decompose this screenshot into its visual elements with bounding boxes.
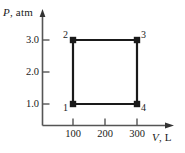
x-axis-ticks [73,119,137,126]
y-tick-label-3: 3.0 [13,34,39,45]
x-axis-label: V, L [152,131,172,143]
y-tick-label-2: 2.0 [13,66,39,77]
marker-point-3 [134,37,140,43]
y-axis-ticks [43,40,50,104]
y-axis [40,9,46,126]
y-axis-label: P, atm [3,6,33,18]
process-cycle-outline [73,40,137,104]
y-tick-label-1: 1.0 [13,98,39,109]
y-axis-label-variable: P [3,6,10,18]
x-axis-arrowhead [165,122,174,128]
x-tick-label-300: 300 [122,128,152,139]
x-tick-label-100: 100 [58,128,88,139]
point-label-3: 3 [141,29,146,40]
y-axis-arrowhead [40,9,46,17]
x-axis-label-variable: V [152,131,159,143]
x-axis-label-unit: , L [159,131,172,143]
marker-point-2 [70,37,76,43]
marker-point-1 [70,101,76,107]
point-label-4: 4 [141,102,146,113]
state-point-markers [70,37,140,107]
marker-point-4 [134,101,140,107]
point-label-1: 1 [63,102,68,113]
pv-diagram-figure: P, atm V, L 3.0 2.0 1.0 100 200 300 1 2 … [0,0,185,153]
point-label-2: 2 [63,29,68,40]
cycle-path [73,40,137,104]
y-axis-label-unit: , atm [10,6,33,18]
x-tick-label-200: 200 [90,128,120,139]
